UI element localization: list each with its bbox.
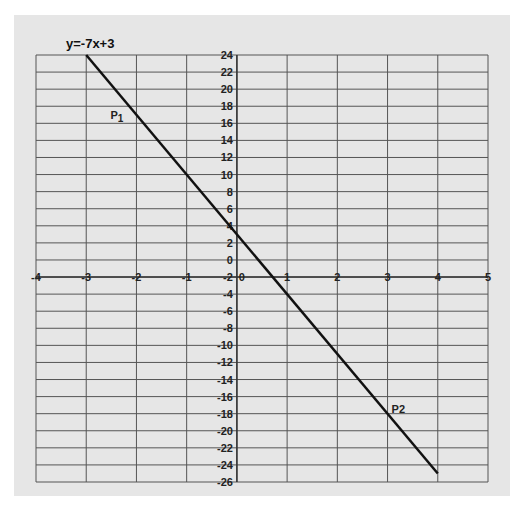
y-tick-label: 6 <box>227 203 233 215</box>
y-tick-label: -20 <box>217 425 233 437</box>
y-tick-label: -6 <box>223 305 233 317</box>
x-tick-label: 0 <box>239 271 245 283</box>
y-tick-label: 2 <box>227 237 233 249</box>
y-tick-label: -18 <box>217 408 233 420</box>
y-tick-label: -26 <box>217 476 233 488</box>
y-tick-label: 12 <box>221 151 233 163</box>
y-tick-label: 22 <box>221 66 233 78</box>
y-tick-label: 14 <box>221 134 234 146</box>
y-tick-label: -4 <box>223 288 234 300</box>
x-tick-label: -3 <box>81 271 91 283</box>
y-tick-label: 20 <box>221 83 233 95</box>
y-tick-label: 8 <box>227 186 233 198</box>
x-tick-label: 2 <box>334 271 340 283</box>
y-tick-label: -22 <box>217 442 233 454</box>
y-tick-label: 16 <box>221 117 233 129</box>
point-annotations: P1P2 <box>110 109 405 415</box>
x-tick-label: -4 <box>31 271 42 283</box>
y-tick-label: 10 <box>221 169 233 181</box>
line-chart: 242220181614121086420-2-4-6-8-10-12-14-1… <box>0 0 528 507</box>
gridlines <box>36 55 488 482</box>
y-tick-label: -24 <box>217 459 234 471</box>
y-tick-label: -8 <box>223 322 233 334</box>
x-tick-label: -1 <box>182 271 192 283</box>
y-tick-label: 24 <box>221 49 234 61</box>
y-tick-label: 0 <box>227 254 233 266</box>
y-tick-label: -12 <box>217 356 233 368</box>
series-line <box>86 55 438 473</box>
y-tick-label: -10 <box>217 339 233 351</box>
x-tick-label: 1 <box>284 271 290 283</box>
x-tick-label: 3 <box>384 271 390 283</box>
chart-title: y=-7x+3 <box>66 36 114 51</box>
data-line <box>86 55 438 473</box>
y-tick-label: -2 <box>223 271 233 283</box>
y-axis-tick-labels: 242220181614121086420-2-4-6-8-10-12-14-1… <box>217 49 234 488</box>
x-tick-label: 5 <box>485 271 491 283</box>
y-tick-label: 18 <box>221 100 233 112</box>
x-tick-label: -2 <box>132 271 142 283</box>
annotation-p2: P2 <box>392 403 405 415</box>
y-tick-label: -16 <box>217 391 233 403</box>
y-tick-label: -14 <box>217 374 234 386</box>
annotation-p1: P1 <box>110 109 123 124</box>
x-tick-label: 4 <box>435 271 442 283</box>
